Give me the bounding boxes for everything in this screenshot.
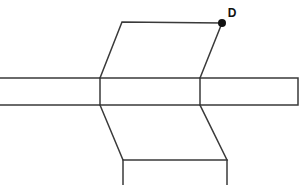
shapes-group: [0, 22, 298, 185]
top-parallelogram: [100, 22, 222, 78]
vertex-dot-d: [218, 19, 226, 27]
vertex-labels-group: D: [228, 6, 237, 20]
vertex-label-d: D: [228, 6, 237, 20]
bottom-parallelogram: [100, 105, 227, 160]
diagram-canvas: D: [0, 0, 306, 185]
diagram-svg: D: [0, 0, 306, 185]
vertex-dots-group: [218, 19, 226, 27]
horizontal-bar: [0, 78, 298, 105]
